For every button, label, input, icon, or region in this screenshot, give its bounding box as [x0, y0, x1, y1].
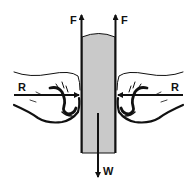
left-fist: [14, 72, 80, 123]
label-f-left: F: [70, 14, 77, 26]
label-f-right: F: [121, 14, 128, 26]
force-diagram: F F R R W: [0, 0, 191, 184]
label-r-right: R: [171, 81, 179, 93]
label-r-left: R: [18, 81, 26, 93]
label-w: W: [103, 165, 114, 177]
right-fist: [117, 72, 183, 123]
